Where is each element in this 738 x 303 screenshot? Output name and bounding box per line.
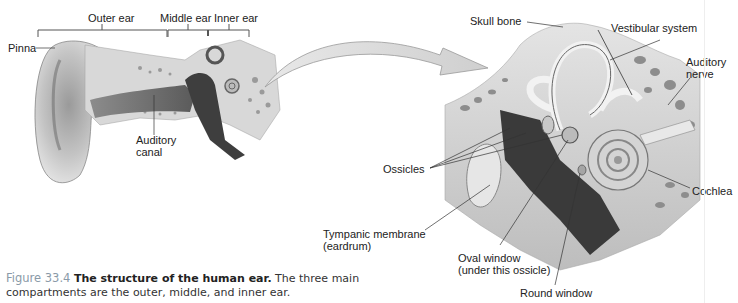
label-round-window: Round window [520,287,592,299]
figure-caption: Figure 33.4 The structure of the human e… [6,271,386,300]
label-oval-window: Oval window (under this ossicle) [458,252,550,276]
compartment-brackets [38,24,249,37]
label-tympanic-line1: Tympanic membrane [323,228,426,240]
label-auditory-canal-line2: canal [136,146,176,158]
figure-title: The structure of the human ear. [74,272,272,285]
label-vestibular-system: Vestibular system [611,22,697,34]
label-tympanic-membrane: Tympanic membrane (eardrum) [323,228,426,252]
label-pinna: Pinna [8,42,36,54]
label-tympanic-line2: (eardrum) [323,240,426,252]
label-auditory-nerve-line2: nerve [686,68,726,80]
label-auditory-nerve: Auditory nerve [686,56,726,80]
page-edge-divider [704,0,705,303]
label-auditory-nerve-line1: Auditory [686,56,726,68]
outer-ear-drawing [35,40,280,183]
inner-ear-enlarged-drawing [445,23,700,270]
label-outer-ear: Outer ear [88,12,134,24]
label-oval-window-line1: Oval window [458,252,550,264]
figure-number: Figure 33.4 [6,271,70,285]
label-auditory-canal-line1: Auditory [136,134,176,146]
label-ossicles: Ossicles [383,163,425,175]
label-oval-window-line2: (under this ossicle) [458,264,550,276]
label-skull-bone: Skull bone [470,15,521,27]
label-cochlea: Cochlea [692,185,732,197]
curved-arrow-icon [265,42,488,87]
ear-illustration [0,0,738,303]
label-inner-ear: Inner ear [214,12,258,24]
label-middle-ear: Middle ear [160,12,211,24]
label-auditory-canal: Auditory canal [136,134,176,158]
